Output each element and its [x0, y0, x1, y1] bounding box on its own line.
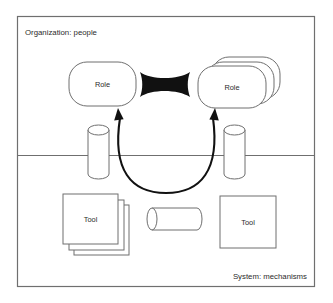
cylinder-left-body: [88, 130, 109, 179]
cylinder-left-top: [88, 125, 109, 135]
diagram-svg: Organization: people System: mechanisms …: [0, 0, 333, 303]
cylinder-right-body: [224, 130, 245, 179]
cylinder-left-node[interactable]: [88, 125, 109, 179]
role-link-connector[interactable]: [140, 72, 190, 97]
organization-zone-label: Organization: people: [25, 28, 97, 37]
feedback-arc-head-left: [114, 108, 123, 121]
tool-left-node[interactable]: Tool: [63, 194, 129, 255]
cylinder-middle-node[interactable]: [147, 208, 202, 230]
role-left-node[interactable]: Role: [69, 62, 136, 106]
cylinder-right-top: [224, 125, 245, 135]
cylinder-middle-cap: [147, 208, 157, 230]
feedback-arc-head-right: [209, 108, 218, 120]
role-right-label: Role: [224, 83, 239, 92]
tool-right-node[interactable]: Tool: [220, 196, 276, 248]
tool-left-label: Tool: [84, 215, 98, 224]
tool-right-label: Tool: [241, 218, 255, 227]
feedback-arc-connector[interactable]: [114, 108, 219, 193]
system-zone-label: System: mechanisms: [233, 272, 307, 281]
cylinder-middle-body: [152, 208, 202, 230]
role-right-node[interactable]: Role: [198, 57, 280, 108]
role-left-label: Role: [95, 80, 110, 89]
cylinder-right-node[interactable]: [224, 125, 245, 179]
diagram-canvas: Organization: people System: mechanisms …: [0, 0, 333, 303]
